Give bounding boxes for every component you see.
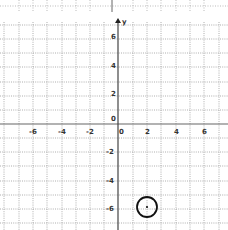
x-tick-label: -6	[29, 128, 37, 136]
x-tick-label: 4	[174, 128, 179, 136]
circle-center-point	[146, 206, 148, 208]
y-tick-label: -4	[106, 177, 114, 185]
y-axis-arrow-icon	[115, 18, 121, 23]
coordinate-plane: y -6 -4 -2 0 2 4 6 6 4 2 0 -2 -4 -6	[0, 0, 228, 230]
x-tick-label: 2	[145, 128, 150, 136]
x-tick-label: 6	[202, 128, 207, 136]
x-tick-label: -4	[58, 128, 66, 136]
y-axis-label: y	[122, 18, 127, 26]
y-tick-label: 4	[111, 62, 116, 70]
x-tick-label: -2	[86, 128, 94, 136]
grid-lines	[0, 22, 228, 230]
y-tick-label: -6	[106, 205, 114, 213]
y-tick-label: 6	[111, 33, 116, 41]
x-tick-label: 0	[119, 128, 124, 136]
top-partial-grid	[0, 0, 228, 12]
y-tick-label: 0	[111, 115, 116, 123]
y-tick-label: 2	[111, 90, 116, 98]
y-tick-label: -2	[106, 148, 114, 156]
